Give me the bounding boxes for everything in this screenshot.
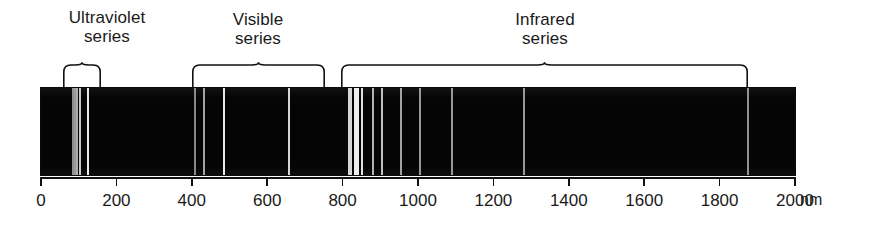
- spectral-line: [523, 88, 525, 175]
- spectral-line: [72, 88, 73, 175]
- axis-tick: [417, 177, 419, 186]
- spectral-line: [348, 88, 351, 175]
- axis-tick: [643, 177, 645, 186]
- axis-tick-label: 400: [152, 191, 232, 211]
- axis-tick-label: 800: [303, 191, 383, 211]
- axis-tick-label: 1200: [453, 191, 533, 211]
- spectral-line: [354, 88, 359, 175]
- brace-visible: [192, 62, 325, 88]
- spectral-line: [361, 88, 363, 175]
- spectral-line: [194, 88, 195, 175]
- spectral-line: [372, 88, 374, 175]
- axis-tick-label: 0: [1, 191, 81, 211]
- spectrum-figure: Ultraviolet series Visible series Infrar…: [0, 0, 874, 231]
- axis-tick: [794, 177, 796, 186]
- spectral-line: [87, 88, 89, 175]
- spectral-line: [381, 88, 383, 175]
- axis-tick-label: 600: [227, 191, 307, 211]
- group-label-infrared: Infrared series: [445, 10, 645, 48]
- spectral-line: [400, 88, 402, 175]
- spectrum-band: [41, 88, 795, 175]
- axis-tick-label: 1600: [604, 191, 684, 211]
- axis-tick: [568, 177, 570, 186]
- spectral-line: [76, 88, 77, 175]
- axis-tick-label: 1800: [680, 191, 760, 211]
- brace-ultraviolet: [63, 62, 101, 88]
- spectral-line: [223, 88, 225, 175]
- spectral-line: [419, 88, 421, 175]
- axis-tick-label: 2000: [755, 191, 835, 211]
- axis-tick: [719, 177, 721, 186]
- axis-tick: [191, 177, 193, 186]
- axis-tick: [116, 177, 118, 186]
- brace-infrared: [341, 62, 748, 88]
- spectral-line: [79, 88, 81, 175]
- axis-unit-label: nm: [800, 191, 822, 209]
- axis-tick: [342, 177, 344, 186]
- axis-tick-label: 200: [76, 191, 156, 211]
- group-label-visible: Visible series: [158, 10, 358, 48]
- spectral-line: [288, 88, 290, 175]
- axis-tick: [493, 177, 495, 186]
- axis-tick-label: 1400: [529, 191, 609, 211]
- axis-tick: [40, 177, 42, 186]
- axis-tick: [266, 177, 268, 186]
- spectral-line: [451, 88, 453, 175]
- spectral-line: [203, 88, 205, 175]
- spectral-line: [747, 88, 749, 175]
- axis-tick-label: 1000: [378, 191, 458, 211]
